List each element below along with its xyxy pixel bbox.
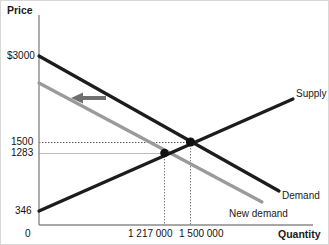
new-equilibrium-point	[160, 149, 169, 158]
y-tick-1500: 1500	[11, 137, 33, 147]
series-label-new-demand: New demand	[229, 209, 288, 219]
x-tick-1500000: 1 500 000	[179, 229, 224, 239]
y-axis-title: Price	[7, 5, 33, 16]
y-tick-1283: 1283	[11, 148, 33, 158]
original-equilibrium-point	[186, 137, 195, 146]
demand-curve	[39, 56, 279, 191]
x-tick-origin: 0	[25, 229, 31, 239]
x-tick-1217000: 1 217 000	[128, 229, 173, 239]
y-tick-3000: $3000	[7, 51, 35, 61]
x-axis-title: Quantity	[278, 229, 321, 240]
series-label-supply: Supply	[296, 89, 327, 99]
series-label-demand: Demand	[282, 191, 320, 201]
y-tick-346: 346	[15, 206, 32, 216]
supply-demand-chart: Price Quantity $3000 1500 1283 346 0 1 2…	[0, 0, 329, 245]
